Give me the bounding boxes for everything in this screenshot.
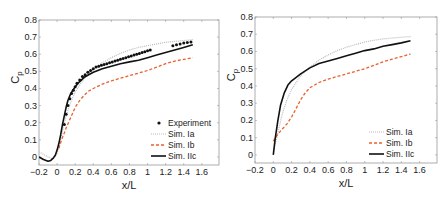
legend: Sim. IaSim. IbSim. IIc bbox=[369, 127, 415, 159]
y-tick-label: 0.4 bbox=[240, 81, 253, 91]
legend-item: Sim. Ia bbox=[369, 127, 413, 137]
y-tick-label: 0.2 bbox=[240, 115, 253, 125]
y-tick-label: 0.4 bbox=[24, 83, 37, 93]
y-tick-label: 0.5 bbox=[240, 64, 253, 74]
legend-label: Sim. Ib bbox=[386, 138, 413, 148]
x-tick-label: 0.2 bbox=[285, 165, 298, 175]
x-tick-label: 0 bbox=[271, 165, 276, 175]
y-tick-label: 0.6 bbox=[240, 46, 253, 56]
legend-item: Sim. Ib bbox=[151, 140, 195, 150]
x-tick-label: 0 bbox=[55, 167, 60, 177]
legend-item: Sim. Ia bbox=[151, 129, 195, 139]
y-tick-label: 0.7 bbox=[240, 29, 253, 39]
y-axis-label: Cp bbox=[9, 71, 24, 84]
x-axis-label: x/L bbox=[339, 177, 354, 189]
x-tick-label: 1 bbox=[145, 167, 150, 177]
y-tick-label: 0.8 bbox=[240, 12, 253, 22]
x-tick-label: 0.6 bbox=[322, 165, 335, 175]
x-tick-label: 1 bbox=[362, 165, 367, 175]
y-tick-label: 0 bbox=[248, 150, 253, 160]
legend-label: Sim. IIc bbox=[168, 151, 197, 161]
x-tick-label: 0.4 bbox=[87, 167, 100, 177]
y-tick-label: 0 bbox=[32, 152, 37, 162]
series-experiment bbox=[63, 40, 193, 126]
x-tick-label: 0.8 bbox=[123, 167, 136, 177]
x-tick-label: 0.4 bbox=[304, 165, 317, 175]
x-axis-label: x/L bbox=[122, 179, 137, 191]
legend-item: Experiment bbox=[157, 118, 211, 128]
x-tick-label: −0.2 bbox=[30, 167, 48, 177]
legend-label: Experiment bbox=[168, 118, 212, 128]
legend-item: Sim. IIc bbox=[369, 149, 415, 159]
x-tick-label: 1.4 bbox=[395, 165, 408, 175]
legend-label: Sim. Ib bbox=[168, 140, 195, 150]
left-cp-chart: −0.200.20.40.60.811.21.41.600.10.20.30.4… bbox=[0, 0, 225, 199]
y-tick-label: 0.3 bbox=[240, 98, 253, 108]
legend-item: Sim. Ib bbox=[369, 138, 413, 148]
y-tick-label: 0.5 bbox=[24, 66, 37, 76]
left-chart-panel: −0.200.20.40.60.811.21.41.600.10.20.30.4… bbox=[0, 0, 225, 199]
y-axis-label: Cp bbox=[225, 68, 240, 81]
y-tick-label: 0.8 bbox=[24, 15, 37, 25]
x-tick-label: 0.2 bbox=[69, 167, 82, 177]
x-tick-label: 1.4 bbox=[177, 167, 190, 177]
legend: ExperimentSim. IaSim. IbSim. IIc bbox=[151, 118, 212, 161]
x-tick-label: 1.6 bbox=[196, 167, 209, 177]
legend-label: Sim. Ia bbox=[386, 127, 413, 137]
x-tick-label: 1.2 bbox=[159, 167, 172, 177]
y-tick-label: 0.1 bbox=[24, 135, 37, 145]
y-tick-label: 0.3 bbox=[24, 101, 37, 111]
y-tick-label: 0.6 bbox=[24, 49, 37, 59]
y-tick-label: 0.1 bbox=[240, 133, 253, 143]
right-chart-panel: −0.200.20.40.60.811.21.41.600.10.20.30.4… bbox=[225, 0, 447, 199]
legend-label: Sim. Ia bbox=[168, 129, 195, 139]
x-tick-label: 1.2 bbox=[377, 165, 390, 175]
right-cp-chart: −0.200.20.40.60.811.21.41.600.10.20.30.4… bbox=[225, 0, 447, 199]
y-tick-label: 0.2 bbox=[24, 118, 37, 128]
x-tick-label: 0.8 bbox=[340, 165, 353, 175]
x-tick-label: −0.2 bbox=[246, 165, 264, 175]
legend-label: Sim. IIc bbox=[386, 149, 415, 159]
y-tick-label: 0.7 bbox=[24, 32, 37, 42]
legend-item: Sim. IIc bbox=[151, 151, 197, 161]
x-tick-label: 0.6 bbox=[105, 167, 118, 177]
x-tick-label: 1.6 bbox=[413, 165, 426, 175]
